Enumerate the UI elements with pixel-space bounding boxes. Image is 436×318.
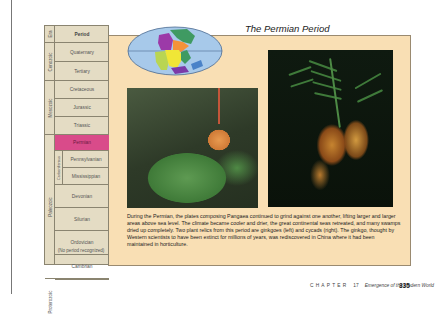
page-margin-line bbox=[11, 0, 12, 294]
ginkgo-stem bbox=[218, 88, 220, 124]
period-devonian: Devonian bbox=[55, 185, 109, 208]
period-triassic: Triassic bbox=[55, 117, 109, 135]
period-cretaceous: Cretaceous bbox=[55, 81, 109, 99]
period-mississippian: Mississippian bbox=[63, 168, 109, 185]
period-quaternary: Quaternary bbox=[55, 43, 109, 62]
cycad-photo bbox=[268, 50, 393, 207]
period-none: (No period recognized) bbox=[54, 235, 108, 265]
period-silurian: Silurian bbox=[55, 208, 109, 231]
period-tertiary: Tertiary bbox=[55, 62, 109, 81]
period-permian: Permian bbox=[55, 135, 109, 151]
era-cenozoic: Cenozoic bbox=[45, 43, 55, 81]
geologic-timescale: Era Cenozoic Mesozoic Paleozoic Proteroz… bbox=[44, 25, 109, 265]
page-title: The Permian Period bbox=[245, 23, 329, 34]
period-pennsylvanian: Pennsylvanian bbox=[63, 151, 109, 168]
era-mesozoic: Mesozoic bbox=[45, 81, 55, 135]
era-column: Era Cenozoic Mesozoic Paleozoic Proteroz… bbox=[45, 26, 55, 264]
page-number: 335 bbox=[399, 282, 410, 289]
subgroup-carboniferous: Carboniferous bbox=[55, 151, 63, 185]
body-paragraph: During the Permian, the plates composing… bbox=[127, 213, 401, 248]
ginkgo-photo bbox=[127, 88, 258, 208]
period-jurassic: Jurassic bbox=[55, 99, 109, 117]
era-header: Era bbox=[45, 26, 55, 43]
pangaea-map-icon bbox=[127, 26, 223, 76]
period-header: Period bbox=[55, 26, 109, 43]
